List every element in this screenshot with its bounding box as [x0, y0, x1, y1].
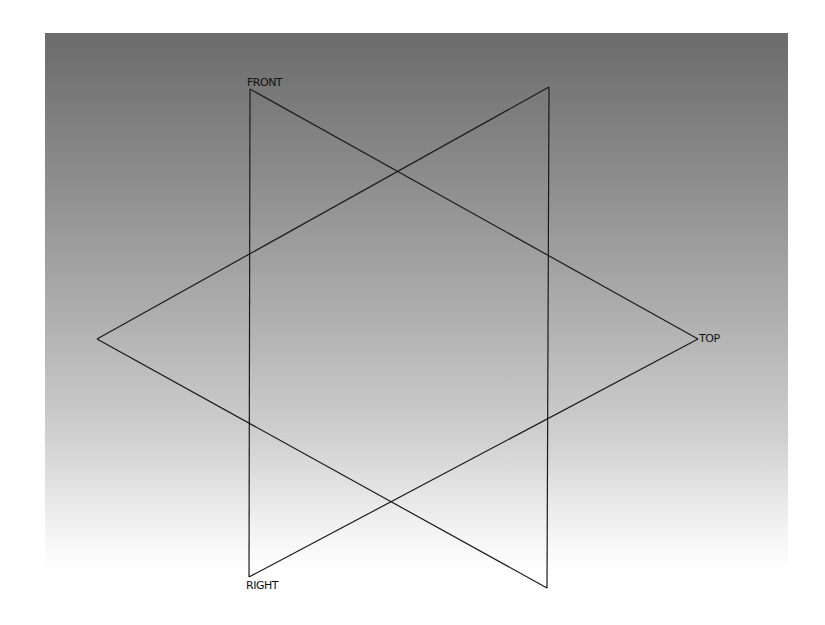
front-plane-edge[interactable] [249, 89, 250, 577]
top-plane-edge[interactable] [97, 339, 547, 588]
front-plane-label[interactable]: FRONT [247, 77, 282, 89]
right-plane-edge[interactable] [249, 339, 698, 577]
top-plane-edge[interactable] [547, 87, 549, 588]
front-plane-edge[interactable] [250, 89, 698, 339]
right-plane-label[interactable]: RIGHT [246, 580, 278, 592]
top-plane-edge[interactable] [97, 87, 549, 339]
top-plane-label[interactable]: TOP [699, 333, 720, 345]
reference-planes[interactable] [0, 0, 825, 625]
